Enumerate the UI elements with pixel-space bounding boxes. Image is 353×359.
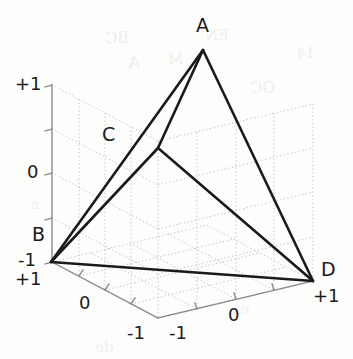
y-tick-label-plus1: +1	[15, 270, 42, 288]
z-tick-label-zero: 0	[27, 163, 38, 181]
y-tick-label-zero: 0	[79, 294, 90, 312]
z-tick-label-minus1: -1	[18, 251, 36, 269]
z-tick-label-plus1: +1	[15, 75, 42, 93]
vertex-label-b: B	[32, 225, 45, 244]
edge-A-D	[203, 50, 313, 281]
edge-A-B	[51, 50, 203, 262]
edge-B-C	[51, 148, 158, 262]
x-tick-label-zero: 0	[228, 306, 239, 324]
edge-A-C	[158, 50, 203, 148]
x-tick-label-plus1: +1	[313, 287, 340, 305]
tetrahedron-edges	[51, 50, 313, 281]
edge-B-D	[51, 262, 313, 281]
x-tick-label-minus1: -1	[169, 324, 187, 342]
grid-back-left-wall	[52, 85, 158, 318]
tetrahedron-plot	[0, 0, 353, 359]
vertex-label-a: A	[196, 16, 209, 35]
vertex-label-d: D	[321, 260, 336, 279]
figure-canvas: BCENAMOC14exden	[0, 0, 353, 359]
y-tick-label-minus1: -1	[127, 324, 145, 342]
vertex-label-c: C	[102, 125, 115, 144]
